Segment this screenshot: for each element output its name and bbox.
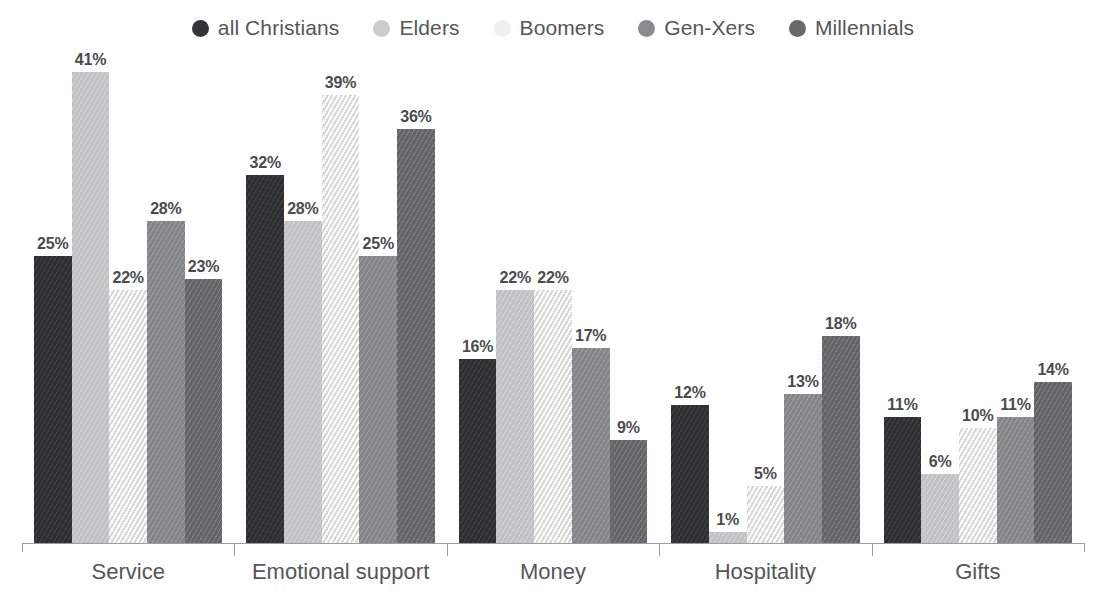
legend-item-millennials[interactable]: Millennials <box>789 16 914 40</box>
bar-value-label: 32% <box>250 154 281 172</box>
bar-column[interactable]: 12% <box>671 46 709 543</box>
bar[interactable] <box>709 532 747 543</box>
bar[interactable] <box>109 290 147 543</box>
legend-item-all-christians[interactable]: all Christians <box>192 16 340 40</box>
bar-column[interactable]: 23% <box>185 46 223 543</box>
category-label: Money <box>447 559 659 585</box>
bar-column[interactable]: 25% <box>34 46 72 543</box>
bar-column[interactable]: 28% <box>284 46 322 543</box>
bar-value-label: 1% <box>716 511 739 529</box>
bar[interactable] <box>959 428 997 543</box>
bar[interactable] <box>322 95 360 543</box>
bar[interactable] <box>284 221 322 543</box>
bar-group: 32%28%39%25%36% <box>246 46 434 543</box>
circle-marker <box>192 20 209 37</box>
bar-column[interactable]: 11% <box>884 46 922 543</box>
bar-column[interactable]: 32% <box>246 46 284 543</box>
legend-item-label: Boomers <box>520 16 605 40</box>
axis-group-tick <box>447 543 448 556</box>
bar-value-label: 11% <box>1000 396 1031 414</box>
bar-column[interactable]: 6% <box>921 46 959 543</box>
bar-group: 12%1%5%13%18% <box>671 46 859 543</box>
legend-item-label: Gen-Xers <box>664 16 755 40</box>
bar-value-label: 23% <box>188 258 219 276</box>
bar-column[interactable]: 22% <box>109 46 147 543</box>
legend-item-label: Elders <box>399 16 459 40</box>
bar[interactable] <box>246 175 284 543</box>
bar-group: 25%41%22%28%23% <box>34 46 222 543</box>
bar[interactable] <box>459 359 497 543</box>
bar-column[interactable]: 28% <box>147 46 185 543</box>
bar[interactable] <box>884 417 922 543</box>
bar-group: 16%22%22%17%9% <box>459 46 647 543</box>
bar-group: 11%6%10%11%14% <box>884 46 1072 543</box>
bar[interactable] <box>1034 382 1072 543</box>
bar-value-label: 41% <box>75 51 106 69</box>
axis-group-tick <box>659 543 660 556</box>
bar-column[interactable]: 11% <box>997 46 1035 543</box>
bar-value-label: 16% <box>462 338 493 356</box>
legend-item-elders[interactable]: Elders <box>373 16 459 40</box>
bar[interactable] <box>784 394 822 543</box>
category-axis: ServiceEmotional supportMoneyHospitality… <box>0 543 1106 607</box>
circle-marker <box>373 20 390 37</box>
bar[interactable] <box>359 256 397 543</box>
bar-value-label: 6% <box>929 453 952 471</box>
bar-column[interactable]: 41% <box>72 46 110 543</box>
bar-column[interactable]: 39% <box>322 46 360 543</box>
bar-column[interactable]: 5% <box>747 46 785 543</box>
bar-value-label: 39% <box>325 74 356 92</box>
bar-column[interactable]: 25% <box>359 46 397 543</box>
bar[interactable] <box>921 474 959 543</box>
bar-column[interactable]: 17% <box>572 46 610 543</box>
bar[interactable] <box>534 290 572 543</box>
category-label: Service <box>22 559 234 585</box>
bar-column[interactable]: 18% <box>822 46 860 543</box>
bar-value-label: 12% <box>674 384 705 402</box>
bar-value-label: 25% <box>363 235 394 253</box>
axis-cap-left <box>22 543 23 552</box>
bar[interactable] <box>747 486 785 543</box>
bar-column[interactable]: 13% <box>784 46 822 543</box>
bar-value-label: 25% <box>37 235 68 253</box>
circle-marker <box>494 20 511 37</box>
bar-column[interactable]: 10% <box>959 46 997 543</box>
axis-cap-right <box>1084 543 1085 552</box>
legend-item-gen-xers[interactable]: Gen-Xers <box>638 16 755 40</box>
legend-item-label: all Christians <box>218 16 340 40</box>
bar-value-label: 18% <box>825 315 856 333</box>
category-label: Emotional support <box>234 559 446 585</box>
bar[interactable] <box>822 336 860 543</box>
bar-value-label: 22% <box>112 269 143 287</box>
legend-item-boomers[interactable]: Boomers <box>494 16 605 40</box>
bar-column[interactable]: 9% <box>610 46 648 543</box>
bar-column[interactable]: 22% <box>496 46 534 543</box>
bar[interactable] <box>671 405 709 543</box>
bar[interactable] <box>997 417 1035 543</box>
bar[interactable] <box>397 129 435 543</box>
bar-value-label: 28% <box>150 200 181 218</box>
bar[interactable] <box>610 440 648 543</box>
bar[interactable] <box>147 221 185 543</box>
bar-column[interactable]: 16% <box>459 46 497 543</box>
bar-column[interactable]: 14% <box>1034 46 1072 543</box>
bar-column[interactable]: 36% <box>397 46 435 543</box>
bar[interactable] <box>34 256 72 543</box>
bar-column[interactable]: 1% <box>709 46 747 543</box>
bar-value-label: 28% <box>287 200 318 218</box>
bar-column[interactable]: 22% <box>534 46 572 543</box>
bar-value-label: 5% <box>754 465 777 483</box>
bar-value-label: 36% <box>400 108 431 126</box>
axis-group-tick <box>234 543 235 556</box>
bar[interactable] <box>572 348 610 543</box>
bar-value-label: 11% <box>887 396 918 414</box>
bar-value-label: 22% <box>500 269 531 287</box>
bar[interactable] <box>72 72 110 543</box>
bar[interactable] <box>185 279 223 543</box>
chart-plot-area: 25%41%22%28%23%32%28%39%25%36%16%22%22%1… <box>0 46 1106 543</box>
chart-legend: all ChristiansEldersBoomersGen-XersMille… <box>0 10 1106 46</box>
bar-value-label: 17% <box>575 327 606 345</box>
bar[interactable] <box>496 290 534 543</box>
bar-value-label: 22% <box>537 269 568 287</box>
bar-value-label: 9% <box>617 419 640 437</box>
